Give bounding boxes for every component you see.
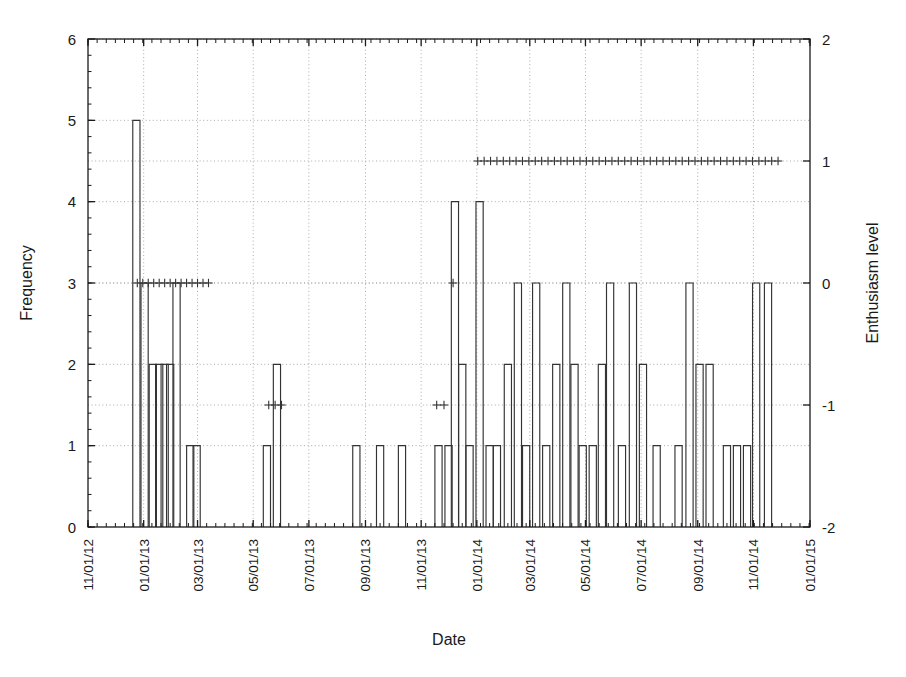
x-tick-label: 03/01/14 bbox=[523, 539, 538, 592]
x-tick-label: 07/01/13 bbox=[302, 539, 317, 592]
chart-page: 0123456-2-101211/01/1201/01/1303/01/1305… bbox=[0, 0, 906, 677]
x-tick-label: 07/01/14 bbox=[634, 539, 649, 592]
y-tick-label: 1 bbox=[68, 437, 76, 454]
x-tick-label: 05/01/13 bbox=[246, 539, 261, 592]
y2-tick-label: 0 bbox=[822, 275, 830, 292]
x-tick-label: 11/01/13 bbox=[414, 539, 429, 591]
x-tick-label: 05/01/14 bbox=[578, 539, 593, 592]
y2-tick-label: -2 bbox=[822, 519, 835, 536]
y-tick-label: 3 bbox=[68, 275, 76, 292]
y2-tick-label: -1 bbox=[822, 397, 835, 414]
y-tick-label: 2 bbox=[68, 356, 76, 373]
x-tick-label: 01/01/15 bbox=[803, 539, 818, 592]
y2-tick-label: 1 bbox=[822, 153, 830, 170]
x-tick-label: 09/01/14 bbox=[691, 539, 706, 592]
y-tick-label: 6 bbox=[68, 31, 76, 48]
x-tick-label: 11/01/12 bbox=[81, 539, 96, 591]
x-tick-label: 01/01/13 bbox=[137, 539, 152, 592]
y-axis-label: Frequency bbox=[18, 245, 35, 321]
x-tick-label: 03/01/13 bbox=[191, 539, 206, 592]
y2-tick-label: 2 bbox=[822, 31, 830, 48]
x-tick-label: 09/01/13 bbox=[358, 539, 373, 592]
y-tick-label: 5 bbox=[68, 112, 76, 129]
frequency-enthusiasm-chart: 0123456-2-101211/01/1201/01/1303/01/1305… bbox=[0, 0, 906, 677]
x-tick-label: 11/01/14 bbox=[746, 539, 761, 591]
x-tick-label: 01/01/14 bbox=[470, 539, 485, 592]
y2-axis-label: Enthusiasm level bbox=[864, 223, 881, 344]
y-tick-label: 0 bbox=[68, 519, 76, 536]
x-axis-label: Date bbox=[432, 631, 466, 648]
y-tick-label: 4 bbox=[68, 193, 76, 210]
